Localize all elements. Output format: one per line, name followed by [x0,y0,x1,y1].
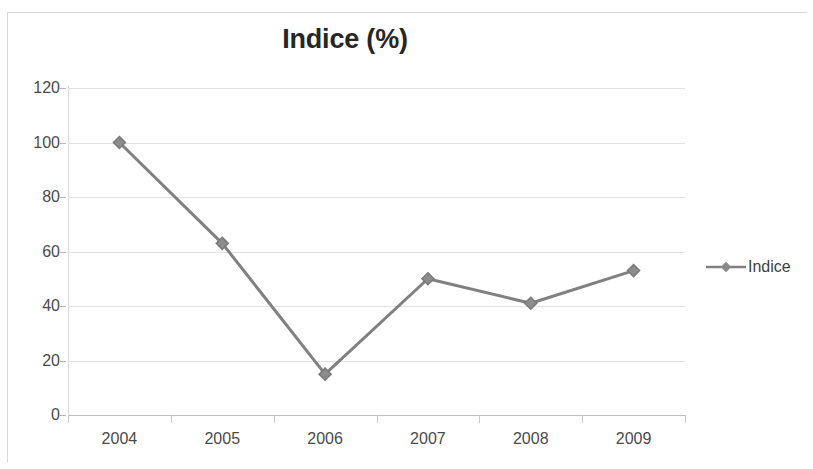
x-axis-tick-mark [582,415,583,423]
x-axis-tick-mark [171,415,172,423]
x-axis-tick-mark [479,415,480,423]
diamond-marker-icon [706,260,746,274]
y-axis-tick-label: 20 [14,352,60,370]
chart-figure: Indice (%) 020406080100120 2004200520062… [0,0,813,469]
y-axis-tick-label: 120 [14,79,60,97]
y-axis-tick-mark [60,415,66,416]
chart-title: Indice (%) [0,24,690,55]
y-axis-tick-mark [60,361,66,362]
data-point-marker [628,265,640,277]
x-axis-tick-label: 2005 [182,430,262,448]
y-axis-tick-mark [60,88,66,89]
y-axis-tick-mark [60,252,66,253]
x-axis-tick-label: 2004 [79,430,159,448]
x-axis-tick-label: 2007 [388,430,468,448]
series-indice [68,88,685,415]
x-axis-tick-marks [68,415,685,424]
y-axis-tick-labels: 020406080100120 [8,88,60,415]
y-axis-tick-mark [60,143,66,144]
x-axis-tick-label: 2009 [594,430,674,448]
x-axis-tick-labels: 200420052006200720082009 [68,430,685,454]
y-axis-tick-label: 40 [14,297,60,315]
x-axis-tick-mark [685,415,686,423]
y-axis-tick-mark [60,197,66,198]
y-axis-tick-label: 80 [14,188,60,206]
x-axis-tick-label: 2008 [491,430,571,448]
figure-frame-top-border [7,12,807,13]
y-axis-tick-label: 0 [14,406,60,424]
y-axis-tick-label: 60 [14,243,60,261]
y-axis-tick-label: 100 [14,134,60,152]
x-axis-tick-mark [68,415,69,423]
plot-area [68,88,685,415]
x-axis-tick-label: 2006 [285,430,365,448]
y-axis-tick-mark [60,306,66,307]
x-axis-tick-mark [377,415,378,423]
chart-legend: Indice [706,256,791,278]
x-axis-tick-mark [274,415,275,423]
data-point-marker [525,297,537,309]
series-line [119,143,633,375]
legend-entry-label: Indice [748,258,791,276]
